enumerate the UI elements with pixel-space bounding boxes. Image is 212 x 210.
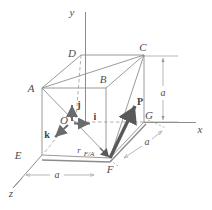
force-vector-P-label: P	[137, 96, 143, 107]
dimension-a-right-label: a	[161, 87, 166, 98]
vertex-label-B: B	[100, 73, 107, 85]
edge-E-F	[42, 155, 110, 158]
vertex-label-F: F	[106, 163, 114, 175]
bottom-base-line	[42, 160, 110, 162]
axis-arrowheads	[13, 123, 196, 189]
z-axis-arrow	[13, 178, 22, 188]
dimension-a-bottom-label: a	[55, 169, 60, 180]
position-vector-r-arrowhead	[100, 148, 109, 157]
vertex-label-O: O	[60, 114, 68, 126]
vertex-label-C: C	[139, 41, 147, 53]
vertex-label-E: E	[14, 149, 22, 161]
figure-container: y x z A B C D E F G O i j k P r F/A a a …	[0, 0, 212, 210]
i-unit-vector-label: i	[94, 111, 97, 122]
position-vector-r-label: r F/A	[77, 145, 95, 158]
dim-line-depth-lower	[124, 146, 142, 158]
edge-F-G	[110, 122, 144, 158]
dim-line-depth-upper	[152, 131, 162, 139]
force-vector-P-arrow	[110, 106, 135, 158]
y-axis-label: y	[69, 6, 75, 18]
position-vector-r-symbol: r	[77, 145, 81, 155]
z-axis-label: z	[8, 187, 14, 199]
k-unit-vector-arrow	[55, 125, 68, 137]
position-vector-group	[100, 148, 109, 157]
diagonal-A-C	[42, 55, 144, 88]
vector-diagram-svg: y x z A B C D E F G O i j k P r F/A a a …	[0, 0, 212, 210]
vertex-label-A: A	[27, 82, 35, 94]
vertex-label-G: G	[145, 109, 153, 121]
position-vector-r-subscript: F/A	[83, 150, 95, 158]
dimension-a-depth-label: a	[145, 136, 150, 147]
edge-A-D	[42, 55, 81, 88]
x-axis-label: x	[197, 123, 203, 135]
k-unit-vector-label: k	[44, 129, 50, 140]
vertex-label-D: D	[67, 47, 76, 59]
force-vector-group	[110, 106, 135, 158]
dim-ext-G-offset	[148, 120, 166, 128]
j-unit-vector-label: j	[76, 99, 80, 110]
